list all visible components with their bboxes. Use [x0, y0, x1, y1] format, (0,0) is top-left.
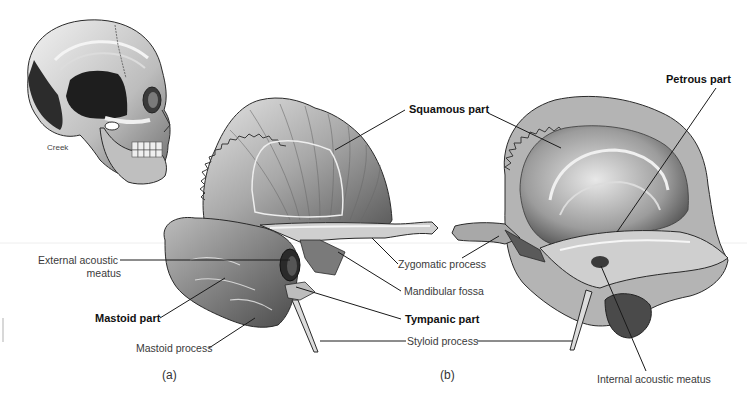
medial-view-illustration: [452, 96, 728, 350]
lateral-view-illustration: [164, 98, 438, 352]
panel-label-b: (b): [440, 369, 455, 381]
skull-inset-caption: Creek: [47, 142, 68, 154]
left-edge-mark: [2, 318, 4, 342]
temporal-bone-figure: Creek Squamous part Petrous part Externa…: [0, 0, 747, 402]
label-internal-acoustic-meatus: Internal acoustic meatus: [597, 373, 711, 385]
label-mandibular-fossa: Mandibular fossa: [404, 285, 484, 297]
label-mastoid-part: Mastoid part: [95, 312, 160, 324]
label-petrous-part: Petrous part: [666, 73, 731, 85]
label-styloid-process: Styloid process: [407, 335, 478, 347]
label-external-acoustic-meatus-line2: meatus: [20, 267, 121, 279]
leader-zygomatic-a: [372, 238, 398, 264]
label-external-acoustic-meatus-line1: External acoustic: [20, 254, 118, 266]
label-squamous-part: Squamous part: [409, 103, 489, 115]
leader-tympanic-part: [296, 287, 401, 319]
label-mastoid-process: Mastoid process: [136, 342, 212, 354]
panel-label-a: (a): [162, 369, 177, 381]
illustration-canvas: [0, 0, 747, 402]
skull-inset-illustration: [28, 20, 170, 184]
label-zygomatic-process: Zygomatic process: [398, 258, 486, 270]
leader-mastoid-process: [209, 318, 255, 348]
label-tympanic-part: Tympanic part: [405, 313, 479, 325]
